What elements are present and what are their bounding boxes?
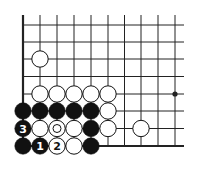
black-stone	[32, 103, 48, 119]
black-stone	[49, 103, 65, 119]
stones-layer: 312	[15, 51, 149, 154]
white-stone	[83, 86, 99, 102]
black-stone-icon	[83, 138, 99, 154]
white-stone-icon	[49, 120, 65, 136]
black-stone-icon	[66, 103, 82, 119]
white-stone-icon	[100, 120, 116, 136]
move-number: 1	[36, 140, 44, 153]
white-stone	[66, 138, 82, 154]
black-stone-icon	[15, 103, 31, 119]
white-stone	[32, 51, 48, 67]
white-stone	[100, 120, 116, 136]
black-stone-icon	[83, 120, 99, 136]
black-stone	[83, 120, 99, 136]
white-stone-icon	[100, 103, 116, 119]
white-stone-icon	[66, 138, 82, 154]
white-stone-marked	[49, 120, 65, 136]
go-board-diagram: 312	[0, 0, 199, 170]
black-stone-move-3: 3	[15, 120, 31, 136]
black-stone-icon	[83, 103, 99, 119]
white-stone	[32, 120, 48, 136]
black-stone-icon	[49, 103, 65, 119]
white-stone	[32, 86, 48, 102]
hoshi-point	[172, 91, 177, 96]
hoshi-points	[172, 91, 177, 96]
black-stone	[15, 138, 31, 154]
white-stone	[49, 86, 65, 102]
white-stone	[133, 120, 149, 136]
white-stone-icon	[100, 86, 116, 102]
white-stone	[100, 103, 116, 119]
black-stone-icon	[15, 138, 31, 154]
white-stone-icon	[133, 120, 149, 136]
white-stone-icon	[32, 51, 48, 67]
white-stone	[100, 86, 116, 102]
black-stone	[83, 138, 99, 154]
black-stone	[66, 103, 82, 119]
white-stone	[66, 86, 82, 102]
move-number: 3	[19, 123, 27, 136]
white-stone-icon	[32, 120, 48, 136]
white-stone-icon	[32, 86, 48, 102]
black-stone-icon	[32, 103, 48, 119]
black-stone-move-1: 1	[32, 138, 48, 154]
white-stone	[66, 120, 82, 136]
black-stone	[15, 103, 31, 119]
white-stone-icon	[83, 86, 99, 102]
black-stone	[83, 103, 99, 119]
white-stone-icon	[66, 86, 82, 102]
white-stone-move-2: 2	[49, 138, 65, 154]
white-stone-icon	[66, 120, 82, 136]
white-stone-icon	[49, 86, 65, 102]
move-number: 2	[53, 140, 61, 153]
